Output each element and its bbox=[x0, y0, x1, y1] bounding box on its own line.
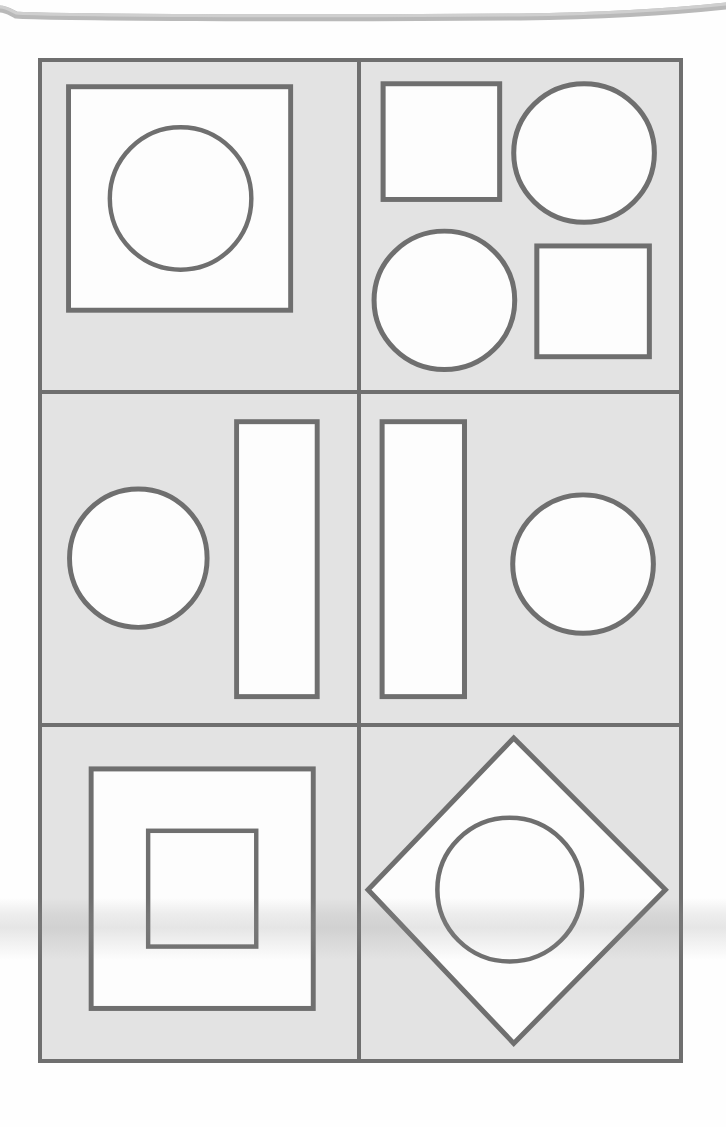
circle-bottom-left-icon bbox=[374, 231, 515, 369]
cell-4-shapes bbox=[361, 394, 680, 722]
grid-cell-3[interactable] bbox=[42, 394, 361, 726]
square-bottom-right-icon bbox=[536, 246, 649, 357]
inner-square-icon bbox=[148, 830, 256, 946]
outer-diamond-icon bbox=[368, 738, 665, 1043]
outer-square-icon bbox=[69, 87, 291, 311]
grid-cell-2[interactable] bbox=[361, 62, 680, 394]
grid-cell-4[interactable] bbox=[361, 394, 680, 726]
circle-left-icon bbox=[70, 489, 208, 627]
tall-rectangle-left-icon bbox=[382, 422, 464, 697]
cell-5-shapes bbox=[42, 727, 357, 1059]
circle-top-right-icon bbox=[513, 84, 654, 222]
grid-cell-6[interactable] bbox=[361, 727, 680, 1059]
cell-2-shapes bbox=[361, 62, 680, 390]
page-edge-artifact bbox=[0, 0, 726, 46]
grid-cell-5[interactable] bbox=[42, 727, 361, 1059]
grid-cell-1[interactable] bbox=[42, 62, 361, 394]
scanned-page bbox=[0, 0, 726, 1127]
shape-grid bbox=[38, 58, 683, 1063]
cell-3-shapes bbox=[42, 394, 357, 722]
cell-1-shapes bbox=[42, 62, 357, 390]
cell-6-shapes bbox=[361, 727, 680, 1059]
square-top-left-icon bbox=[383, 84, 500, 200]
circle-right-icon bbox=[512, 495, 653, 633]
tall-rectangle-right-icon bbox=[237, 422, 318, 697]
